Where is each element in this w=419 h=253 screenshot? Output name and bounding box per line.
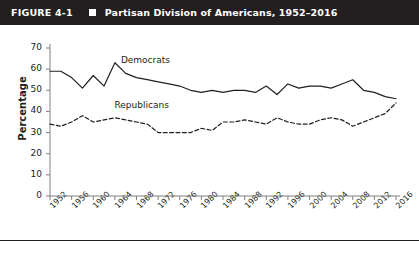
series-paths [50, 63, 396, 133]
figure-number: FIGURE 4-1 [11, 7, 73, 18]
chart-area: Percentage 010203040506070 1952195619601… [0, 25, 419, 228]
series-line-democrats [50, 63, 396, 99]
series-label-democrats: Democrats [121, 55, 170, 65]
figure-title: Partisan Division of Americans, 1952–201… [105, 7, 338, 18]
line-plot [0, 25, 419, 228]
figure-header: FIGURE 4-1 Partisan Division of American… [0, 0, 419, 25]
series-line-republicans [50, 103, 396, 133]
figure-root: FIGURE 4-1 Partisan Division of American… [0, 0, 419, 253]
square-bullet-icon [89, 9, 96, 16]
bottom-divider [0, 240, 419, 241]
series-label-republicans: Republicans [114, 100, 168, 110]
